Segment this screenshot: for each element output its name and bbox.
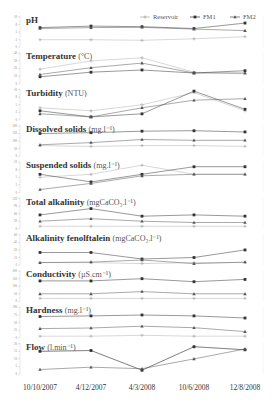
panel-hardness: 1007550250Hardness (mg.l⁻¹) bbox=[13, 305, 264, 339]
series-line-fm2 bbox=[40, 349, 245, 370]
triangle-marker bbox=[38, 112, 41, 115]
x-tick-label: 4/3/2008 bbox=[129, 383, 156, 392]
y-tick-label: 30 bbox=[14, 59, 18, 63]
panel-title: Conductivity (µS.cm⁻¹) bbox=[26, 269, 111, 279]
x-tick-label: 10/6/2008 bbox=[179, 383, 210, 392]
triangle-marker bbox=[243, 221, 246, 224]
square-marker bbox=[141, 314, 144, 317]
square-marker bbox=[90, 71, 93, 74]
triangle-marker bbox=[140, 324, 143, 327]
panel-title: Flow (l.min⁻¹) bbox=[26, 342, 76, 352]
square-marker bbox=[90, 131, 93, 134]
legend-label-reservoir: Reservoir bbox=[153, 13, 179, 20]
y-tick-label: 200 bbox=[13, 269, 18, 273]
square-marker bbox=[39, 173, 42, 176]
square-marker bbox=[141, 277, 144, 280]
y-tick-label: 50 bbox=[14, 147, 18, 151]
y-tick-label: 60 bbox=[14, 212, 18, 216]
x-tick-label: 12/8/2008 bbox=[230, 383, 261, 392]
y-tick-label: 0 bbox=[16, 45, 18, 49]
y-tick-label: 25 bbox=[14, 328, 18, 332]
x-tick-label: 10/10/2007 bbox=[23, 383, 57, 392]
y-tick-label: 0 bbox=[16, 336, 18, 340]
panel-turbidity: 108530Turbidity (NTU) bbox=[14, 88, 263, 122]
panel-ph: 108530pH bbox=[14, 15, 263, 49]
square-marker bbox=[39, 214, 42, 217]
legend-label-fm1: FM1 bbox=[203, 13, 216, 20]
panel-dissolved-solids: 200150100500Dissolved solids (mg.l⁻¹) bbox=[13, 124, 264, 158]
y-tick-label: 120 bbox=[13, 197, 18, 201]
square-marker bbox=[193, 345, 196, 348]
triangle-marker bbox=[243, 97, 246, 100]
y-tick-label: 8 bbox=[16, 168, 18, 172]
x-axis: 10/10/20074/12/20074/3/200810/6/200812/8… bbox=[23, 383, 261, 392]
square-marker bbox=[90, 349, 93, 352]
panel-total-alkalinity: 1209060300Total alkalinity (mgCaCO₃.l⁻¹) bbox=[13, 197, 264, 231]
square-marker bbox=[193, 314, 196, 317]
panel-title: Hardness (mg.l⁻¹) bbox=[26, 305, 91, 315]
square-marker bbox=[244, 131, 247, 134]
y-tick-label: 5 bbox=[16, 175, 18, 179]
square-marker bbox=[141, 69, 144, 72]
y-tick-label: 8 bbox=[16, 23, 18, 27]
y-tick-label: 100 bbox=[13, 305, 18, 309]
y-tick-label: 0 bbox=[16, 82, 18, 86]
y-tick-label: 50 bbox=[14, 321, 18, 325]
square-marker bbox=[39, 280, 42, 283]
panel-title: Total alkalinity (mgCaCO₃.l⁻¹) bbox=[26, 197, 136, 207]
legend-label-fm2: FM2 bbox=[243, 13, 256, 20]
series-line-fm1 bbox=[40, 250, 245, 259]
square-marker bbox=[39, 315, 42, 318]
y-tick-label: 75 bbox=[14, 313, 18, 317]
square-marker bbox=[244, 317, 247, 320]
panel-title: pH bbox=[26, 15, 38, 25]
square-marker bbox=[141, 112, 144, 115]
y-tick-label: 10 bbox=[14, 357, 18, 361]
square-marker bbox=[39, 109, 42, 112]
panel-temperature: 403020100Temperature (°C) bbox=[14, 51, 263, 85]
triangle-marker bbox=[140, 290, 143, 293]
square-marker bbox=[193, 90, 196, 93]
square-marker bbox=[244, 278, 247, 281]
series-line-reservoir bbox=[40, 37, 245, 41]
square-marker bbox=[193, 256, 196, 259]
y-tick-label: 10 bbox=[14, 15, 18, 19]
y-tick-label: 5 bbox=[16, 103, 18, 107]
square-marker bbox=[244, 22, 247, 25]
y-tick-label: 50 bbox=[14, 292, 18, 296]
y-tick-label: 150 bbox=[13, 131, 18, 135]
triangle-marker bbox=[89, 365, 92, 368]
square-marker bbox=[141, 130, 144, 133]
y-tick-label: 100 bbox=[13, 139, 18, 143]
square-marker bbox=[193, 165, 196, 168]
square-marker bbox=[90, 314, 93, 317]
y-tick-label: 0 bbox=[16, 299, 18, 303]
y-tick-label: 15 bbox=[14, 349, 18, 353]
y-tick-label: 30 bbox=[14, 219, 18, 223]
y-tick-label: 90 bbox=[14, 204, 18, 208]
panel-flow: 20151050Flow (l.min⁻¹) bbox=[14, 342, 263, 376]
y-tick-label: 0 bbox=[16, 154, 18, 158]
y-tick-label: 5 bbox=[16, 30, 18, 34]
chart-figure: ReservoirFM1FM2 108530pH 403020100Temper… bbox=[0, 0, 276, 402]
panel-title: Temperature (°C) bbox=[26, 51, 92, 61]
square-marker bbox=[244, 165, 247, 168]
panel-title: Alkalinity fenolftalein (mgCaCO₃.l⁻¹) bbox=[26, 233, 162, 243]
y-tick-label: 20 bbox=[14, 342, 18, 346]
y-tick-label: 10 bbox=[14, 160, 18, 164]
square-marker bbox=[39, 350, 42, 353]
square-marker bbox=[193, 214, 196, 217]
triangle-marker bbox=[89, 217, 92, 220]
y-tick-label: 20 bbox=[14, 66, 18, 70]
square-marker bbox=[90, 207, 93, 210]
square-marker bbox=[39, 251, 42, 254]
panel-conductivity: 200150100500Conductivity (µS.cm⁻¹) bbox=[13, 269, 264, 303]
panels: 108530pH 403020100Temperature (°C)108530… bbox=[13, 15, 264, 376]
y-tick-label: 15 bbox=[14, 256, 18, 260]
triangle-marker bbox=[140, 61, 143, 64]
y-tick-label: 8 bbox=[16, 95, 18, 99]
y-tick-label: 0 bbox=[16, 372, 18, 376]
y-tick-label: 5 bbox=[16, 364, 18, 368]
panel-title: Suspended solids (mg.l⁻¹) bbox=[26, 160, 120, 170]
y-tick-label: 0 bbox=[16, 227, 18, 231]
